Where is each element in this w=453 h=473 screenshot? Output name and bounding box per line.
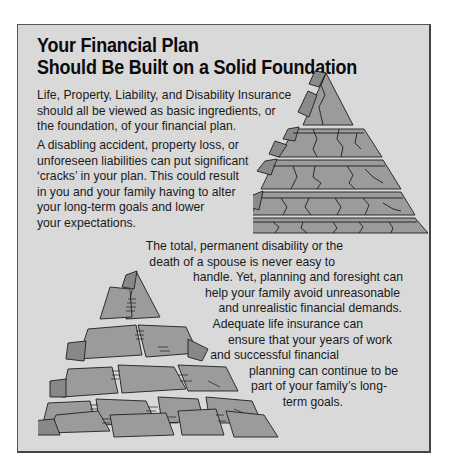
paragraph-life-insurance: The total, permanent disability or the d… — [18, 239, 413, 411]
text-line: Adequate life insurance can — [18, 317, 413, 333]
text-line: ‘cracks’ in your plan. This could result — [37, 169, 248, 185]
paragraph-cracks: A disabling accident, property loss, or … — [37, 138, 248, 232]
text-line: The total, permanent disability or the — [18, 239, 413, 255]
text-line: death of a spouse is never easy to — [18, 255, 413, 271]
text-line: handle. Yet, planning and foresight can — [18, 270, 413, 286]
text-line: in you and your family having to alter — [37, 185, 248, 201]
text-line: term goals. — [18, 395, 413, 411]
text-line: ensure that your years of work — [18, 333, 413, 349]
text-line: and unrealistic financial demands. — [18, 301, 413, 317]
cracked-pyramid-illustration — [253, 65, 428, 235]
text-line: your long-term goals and lower — [37, 200, 248, 216]
text-line: unforeseen liabilities can put significa… — [37, 154, 248, 170]
text-line: your expectations. — [37, 216, 248, 232]
text-line: planning can continue to be — [18, 364, 413, 380]
text-line: and successful financial — [18, 348, 413, 364]
title-line-1: Your Financial Plan — [37, 34, 357, 56]
text-line: A disabling accident, property loss, or — [37, 138, 248, 154]
text-line: part of your family’s long- — [18, 379, 413, 395]
info-panel: Your Financial Plan Should Be Built on a… — [17, 24, 431, 453]
text-line: help your family avoid unreasonable — [18, 286, 413, 302]
